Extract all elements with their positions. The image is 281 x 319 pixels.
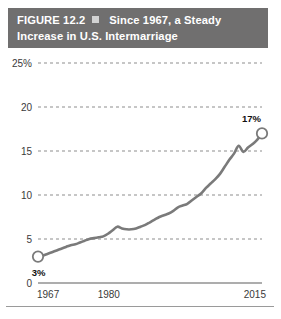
figure-title-part-one: Since 1967, a Steady (109, 14, 221, 26)
x-axis-tick-label: 1980 (98, 289, 121, 300)
y-axis-tick-label: 20 (21, 102, 33, 113)
data-series-line (38, 133, 262, 256)
x-axis-tick-label: 1967 (37, 289, 60, 300)
y-axis-tick-label: 15 (21, 146, 33, 157)
square-bullet-icon (92, 16, 99, 23)
x-axis-ticks: 196719802015 (37, 289, 266, 300)
y-axis-tick-label: 0 (26, 278, 32, 289)
annotation-end-value: 17% (242, 113, 262, 124)
x-axis-tick-label: 2015 (244, 289, 267, 300)
caption-line-one: FIGURE 12.2Since 1967, a Steady (17, 12, 268, 28)
annotation-start-value: 3% (32, 267, 46, 278)
caption-line-two: Increase in U.S. Intermarriage (17, 28, 268, 44)
figure-number: FIGURE 12.2 (17, 14, 85, 26)
y-axis-tick-label: 5 (26, 234, 32, 245)
figure-caption-bar: FIGURE 12.2Since 1967, a Steady Increase… (8, 8, 268, 48)
figure-bottom-rule (6, 306, 274, 307)
gridlines-group (38, 63, 262, 239)
y-axis-tick-label: 10 (21, 190, 33, 201)
y-axis-tick-label: 25% (12, 58, 32, 69)
figure-container: FIGURE 12.2Since 1967, a Steady Increase… (0, 0, 281, 319)
data-point-marker (257, 128, 267, 138)
y-axis-ticks: 25%20151050 (12, 58, 32, 289)
chart-plot-area: 25%20151050 3%17% 196719802015 (0, 52, 281, 306)
line-chart-svg: 25%20151050 3%17% 196719802015 (0, 52, 281, 306)
data-point-marker (33, 251, 43, 261)
